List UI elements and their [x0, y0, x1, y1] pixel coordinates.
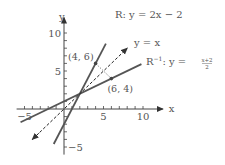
data-point: [110, 77, 114, 81]
series-label-R-inverse: R−1: y =: [146, 55, 186, 67]
x-axis-label: x: [169, 103, 175, 114]
x-tick-label: 10: [137, 111, 150, 122]
y-tick-label: 5: [55, 66, 61, 77]
fraction-numerator: x+2: [201, 57, 212, 63]
labels-group: (4, 6)(6, 4)R: y = 2x − 2y = xR−1: y = x…: [68, 9, 213, 94]
arrow-start-identity: [32, 133, 38, 139]
y-tick-label: −5: [68, 142, 83, 153]
series-label-identity: y = x: [133, 37, 160, 48]
series-label-R: R: y = 2x − 2: [115, 9, 183, 20]
y-tick-label: 10: [48, 28, 61, 39]
point-label: (4, 6): [68, 51, 94, 62]
x-tick-label: 5: [100, 111, 106, 122]
axes: −5510105−5xy: [17, 11, 175, 155]
graph: −5510105−5xy (4, 6)(6, 4)R: y = 2x − 2y …: [0, 0, 225, 165]
point-label: (6, 4): [107, 83, 133, 94]
y-axis-label: y: [58, 11, 65, 22]
fraction-denominator: 2: [205, 64, 209, 70]
data-point: [94, 62, 98, 66]
